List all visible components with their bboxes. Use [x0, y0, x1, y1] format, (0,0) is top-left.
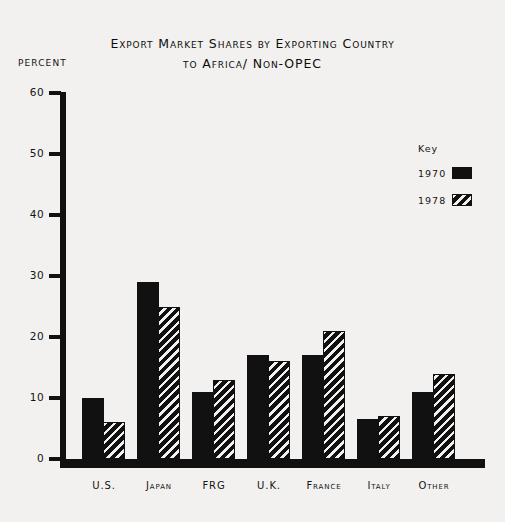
y-tick-30 — [49, 274, 61, 278]
bar-us-1978 — [103, 422, 125, 459]
y-tick-label-0: 0 — [14, 452, 44, 464]
legend-swatch-1970 — [452, 167, 472, 179]
y-tick-label-40: 40 — [14, 208, 44, 220]
bar-us-1970 — [82, 398, 104, 459]
plot-area: 0102030405060 U.S.JapanFRGU.K.FranceItal… — [0, 0, 505, 522]
y-tick-label-50: 50 — [14, 147, 44, 159]
legend-item-1970: 1970 — [418, 167, 472, 179]
x-axis-baseline — [60, 459, 485, 468]
legend: Key 1970 1978 — [418, 143, 472, 221]
bar-france-1978 — [323, 331, 345, 459]
y-tick-label-30: 30 — [14, 269, 44, 281]
y-tick-label-10: 10 — [14, 391, 44, 403]
y-tick-60 — [49, 91, 61, 95]
legend-swatch-1978 — [452, 194, 472, 206]
category-label-other: Other — [394, 480, 474, 491]
legend-item-1978: 1978 — [418, 194, 472, 206]
y-tick-20 — [49, 335, 61, 339]
chart-root: Export Market Shares by Exporting Countr… — [0, 0, 505, 522]
bar-uk-1978 — [268, 361, 290, 459]
bar-other-1970 — [412, 392, 434, 459]
bar-france-1970 — [302, 355, 324, 459]
bar-italy-1978 — [378, 416, 400, 459]
y-tick-label-60: 60 — [14, 86, 44, 98]
bar-japan-1970 — [137, 282, 159, 459]
bar-frg-1978 — [213, 380, 235, 459]
bar-italy-1970 — [357, 419, 379, 459]
y-tick-50 — [49, 152, 61, 156]
legend-label-1970: 1970 — [418, 168, 446, 179]
y-tick-40 — [49, 213, 61, 217]
y-tick-0 — [49, 457, 61, 461]
bar-uk-1970 — [247, 355, 269, 459]
y-tick-10 — [49, 396, 61, 400]
bar-frg-1970 — [192, 392, 214, 459]
bar-japan-1978 — [158, 307, 180, 460]
y-tick-label-20: 20 — [14, 330, 44, 342]
bar-other-1978 — [433, 374, 455, 459]
legend-label-1978: 1978 — [418, 195, 446, 206]
legend-title: Key — [418, 143, 472, 154]
